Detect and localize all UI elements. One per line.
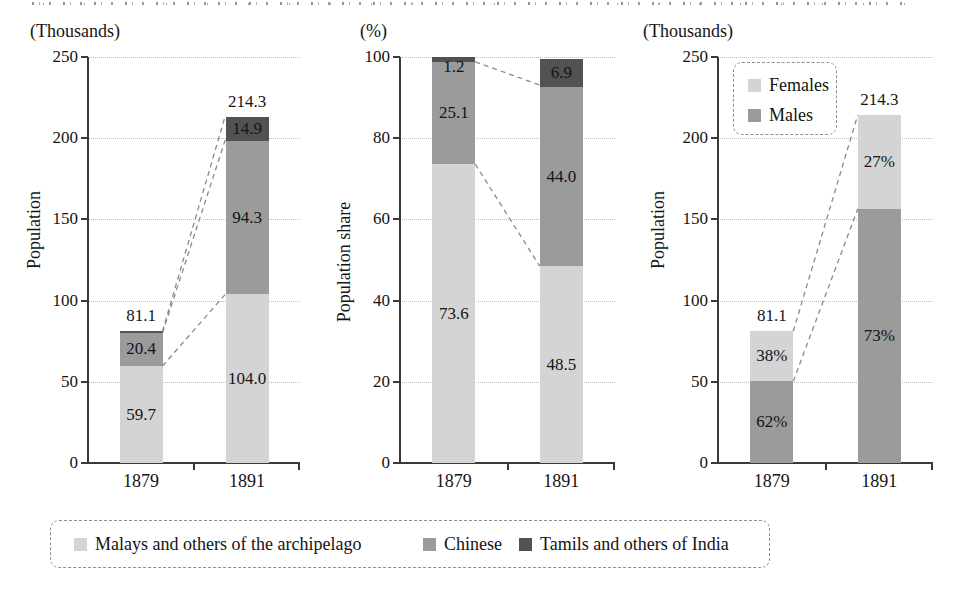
legend-swatch xyxy=(748,79,761,92)
y-tick-label: 60 xyxy=(338,209,390,229)
cropped-caption-remnant xyxy=(26,0,906,5)
bar-segment-label: 73% xyxy=(834,327,924,345)
y-grid-line xyxy=(718,57,933,58)
y-tick-label: 200 xyxy=(656,128,708,148)
legend-swatch xyxy=(519,538,532,551)
y-tick-label: 0 xyxy=(26,453,78,473)
category-label: 1879 xyxy=(409,471,499,492)
bar-total-label: 214.3 xyxy=(202,92,292,112)
legend-item: Males xyxy=(748,104,813,126)
y-tick-label: 250 xyxy=(656,47,708,67)
bar-segment-label: 1.2 xyxy=(409,58,499,76)
y-tick-label: 40 xyxy=(338,291,390,311)
bar-segment xyxy=(120,331,163,333)
y-axis-title: Population xyxy=(24,191,45,269)
category-label: 1891 xyxy=(834,471,924,492)
legend-swatch xyxy=(423,538,436,551)
y-tick-label: 50 xyxy=(26,372,78,392)
y-grid-line xyxy=(718,138,933,139)
x-axis-tick xyxy=(507,463,509,470)
category-label: 1891 xyxy=(202,471,292,492)
legend-box-sex: FemalesMales xyxy=(733,62,837,135)
legend-item: Chinese xyxy=(423,533,502,555)
population-charts-figure: (Thousands)Population05010015020025059.7… xyxy=(0,0,959,598)
legend-box-bottom: Malays and others of the archipelagoChin… xyxy=(50,520,770,568)
bar-total-label: 81.1 xyxy=(727,306,817,326)
y-tick-label: 0 xyxy=(338,453,390,473)
category-label: 1879 xyxy=(96,471,186,492)
y-tick-label: 100 xyxy=(26,291,78,311)
bar-total-label: 214.3 xyxy=(834,90,924,110)
y-tick-label: 250 xyxy=(26,47,78,67)
x-axis-tick xyxy=(931,463,933,470)
category-label: 1879 xyxy=(727,471,817,492)
legend-swatch xyxy=(74,538,87,551)
bar-total-label: 81.1 xyxy=(96,306,186,326)
y-tick-label: 150 xyxy=(656,209,708,229)
x-axis-tick xyxy=(825,463,827,470)
bar-segment-label: 73.6 xyxy=(409,305,499,323)
y-axis-line xyxy=(87,57,89,464)
bar-segment-label: 25.1 xyxy=(409,104,499,122)
legend-item: Tamils and others of India xyxy=(519,533,729,555)
bar-segment-label: 27% xyxy=(834,153,924,171)
y-tick-label: 0 xyxy=(656,453,708,473)
bar-segment-label: 38% xyxy=(727,347,817,365)
legend-label: Females xyxy=(769,74,829,96)
y-grid-line xyxy=(718,301,933,302)
x-axis-tick xyxy=(193,463,195,470)
legend-label: Malays and others of the archipelago xyxy=(95,533,361,555)
connector-line xyxy=(163,139,226,333)
unit-header: (Thousands) xyxy=(643,21,733,42)
y-tick-label: 20 xyxy=(338,372,390,392)
y-grid-line xyxy=(718,219,933,220)
legend-label: Tamils and others of India xyxy=(540,533,729,555)
y-grid-line xyxy=(88,57,300,58)
y-tick-label: 200 xyxy=(26,128,78,148)
legend-item: Malays and others of the archipelago xyxy=(74,533,361,555)
y-tick-label: 150 xyxy=(26,209,78,229)
x-axis-tick xyxy=(298,463,300,470)
bar-segment-label: 20.4 xyxy=(96,340,186,358)
y-tick-label: 100 xyxy=(338,47,390,67)
connector-line xyxy=(793,115,858,331)
legend-label: Chinese xyxy=(444,533,502,555)
bar-segment-label: 14.9 xyxy=(202,120,292,138)
y-tick-label: 80 xyxy=(338,128,390,148)
legend-swatch xyxy=(748,109,761,122)
x-axis-tick xyxy=(613,463,615,470)
unit-header: (%) xyxy=(360,21,387,42)
legend-label: Males xyxy=(769,104,813,126)
bar-segment-label: 94.3 xyxy=(202,209,292,227)
y-axis-line xyxy=(399,57,401,464)
bar-segment-label: 59.7 xyxy=(96,406,186,424)
bar-segment-label: 44.0 xyxy=(516,168,606,186)
bar-segment-label: 6.9 xyxy=(516,64,606,82)
y-tick-label: 100 xyxy=(656,291,708,311)
y-axis-title: Population xyxy=(648,191,669,269)
bar-segment-label: 48.5 xyxy=(516,356,606,374)
bar-segment-label: 62% xyxy=(727,413,817,431)
legend-item: Females xyxy=(748,74,829,96)
y-axis-line xyxy=(717,57,719,464)
bar-segment-label: 104.0 xyxy=(202,370,292,388)
category-label: 1891 xyxy=(516,471,606,492)
y-tick-label: 50 xyxy=(656,372,708,392)
unit-header: (Thousands) xyxy=(30,21,120,42)
